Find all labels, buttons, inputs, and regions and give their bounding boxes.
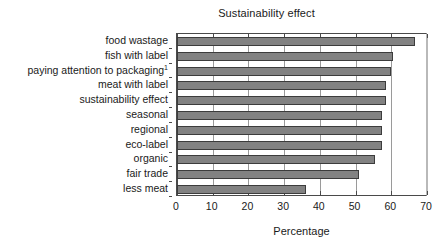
y-axis-category-labels: food wastagefish with labelpaying attent…	[0, 33, 172, 196]
y-tick	[169, 63, 172, 64]
bar-row	[177, 96, 426, 105]
y-axis-label-fish-with-label: fish with label	[105, 50, 168, 61]
y-tick	[169, 122, 172, 123]
chart-title-text: Sustainability effect	[218, 7, 315, 19]
y-axis-label-paying-attention-to-packaging: paying attention to packaging1	[27, 65, 168, 76]
bar-row	[177, 185, 426, 194]
bar	[177, 170, 359, 179]
x-tick-bottom-70	[427, 191, 428, 195]
x-tick-label-10: 10	[206, 200, 218, 212]
x-axis-title: Percentage	[176, 225, 427, 237]
y-tick	[169, 48, 172, 49]
x-axis-tick-labels: 010203040506070	[0, 200, 447, 216]
footnote-marker: 1	[164, 63, 168, 70]
plot-area	[176, 33, 427, 196]
x-tick-label-50: 50	[349, 200, 361, 212]
bar	[177, 67, 391, 76]
gridline-70	[427, 34, 428, 195]
bar-row	[177, 170, 426, 179]
x-tick-label-40: 40	[313, 200, 325, 212]
y-tick	[169, 152, 172, 153]
bar	[177, 81, 386, 90]
x-tick-label-60: 60	[384, 200, 396, 212]
x-tick-label-30: 30	[277, 200, 289, 212]
x-tick-label-70: 70	[420, 200, 432, 212]
x-tick-label-20: 20	[242, 200, 254, 212]
y-axis-label-seasonal: seasonal	[126, 109, 168, 120]
bar	[177, 141, 382, 150]
bar	[177, 96, 386, 105]
bar-row	[177, 141, 426, 150]
bar	[177, 185, 306, 194]
bar-row	[177, 155, 426, 164]
chart-title: Sustainability effect	[0, 7, 447, 19]
y-axis-label-food-wastage: food wastage	[106, 35, 168, 46]
y-tick	[169, 196, 172, 197]
y-tick	[169, 107, 172, 108]
bar	[177, 126, 382, 135]
chart-figure: Sustainability effect food wastagefish w…	[0, 0, 447, 251]
bar	[177, 111, 382, 120]
bar-row	[177, 37, 426, 46]
bar	[177, 155, 375, 164]
y-axis-label-less-meat: less meat	[123, 183, 168, 194]
x-tick-top-70	[427, 34, 428, 38]
bar	[177, 52, 393, 61]
bar-row	[177, 52, 426, 61]
bar-row	[177, 81, 426, 90]
bar-row	[177, 67, 426, 76]
y-tick	[169, 92, 172, 93]
y-tick	[169, 166, 172, 167]
y-tick	[169, 77, 172, 78]
y-tick	[169, 181, 172, 182]
y-tick	[169, 137, 172, 138]
x-tick-label-0: 0	[173, 200, 179, 212]
bar-row	[177, 111, 426, 120]
y-axis-label-sustainability-effect: sustainability effect	[79, 94, 168, 105]
y-axis-label-meat-with-label: meat with label	[98, 79, 168, 90]
bar-row	[177, 126, 426, 135]
y-axis-label-eco-label: eco-label	[125, 139, 168, 150]
y-axis-label-regional: regional	[131, 124, 168, 135]
y-axis-label-organic: organic	[134, 153, 168, 164]
y-axis-label-fair-trade: fair trade	[127, 168, 168, 179]
bar	[177, 37, 415, 46]
